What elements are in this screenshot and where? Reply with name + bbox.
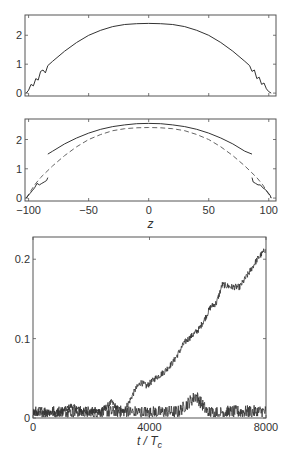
series-left-edge-solid — [26, 178, 48, 199]
x-tick-label: −100 — [16, 204, 41, 216]
x-tick-label: 100 — [260, 204, 278, 216]
y-tick-label: 1 — [16, 58, 22, 70]
series-right-edge-solid — [252, 178, 271, 199]
x-tick-label: 0 — [30, 421, 36, 433]
axes-frame — [25, 119, 276, 201]
y-tick-label: 0.2 — [15, 253, 30, 265]
x-tick-label: 8000 — [254, 421, 278, 433]
panel-bottom-time-series: 00.10.2040008000t / Tc — [15, 237, 279, 450]
axes-frame — [33, 237, 266, 418]
y-tick-label: 2 — [16, 134, 22, 146]
series-growing-signal — [33, 249, 266, 416]
panel-top-density-profile: 012 — [16, 15, 276, 99]
x-axis-label: z — [147, 217, 154, 231]
y-tick-label: 0 — [16, 192, 22, 204]
y-tick-label: 0.1 — [15, 333, 30, 345]
x-tick-label: 0 — [146, 204, 152, 216]
y-tick-label: 2 — [16, 29, 22, 41]
series-solid-core — [48, 123, 252, 154]
x-tick-label: 4000 — [137, 421, 161, 433]
panel-middle-density-comparison: 012−100−50050100z — [16, 119, 278, 231]
series-profile — [26, 23, 271, 93]
x-tick-label: 50 — [203, 204, 215, 216]
series-baseline-noise — [33, 393, 266, 418]
y-tick-label: 0 — [16, 87, 22, 99]
x-axis-label: t / Tc — [137, 434, 163, 450]
y-tick-label: 1 — [16, 163, 22, 175]
x-tick-label: −50 — [79, 204, 98, 216]
series-dashed-reference — [26, 128, 271, 199]
figure: 012 012−100−50050100z 00.10.2040008000t … — [0, 0, 290, 458]
